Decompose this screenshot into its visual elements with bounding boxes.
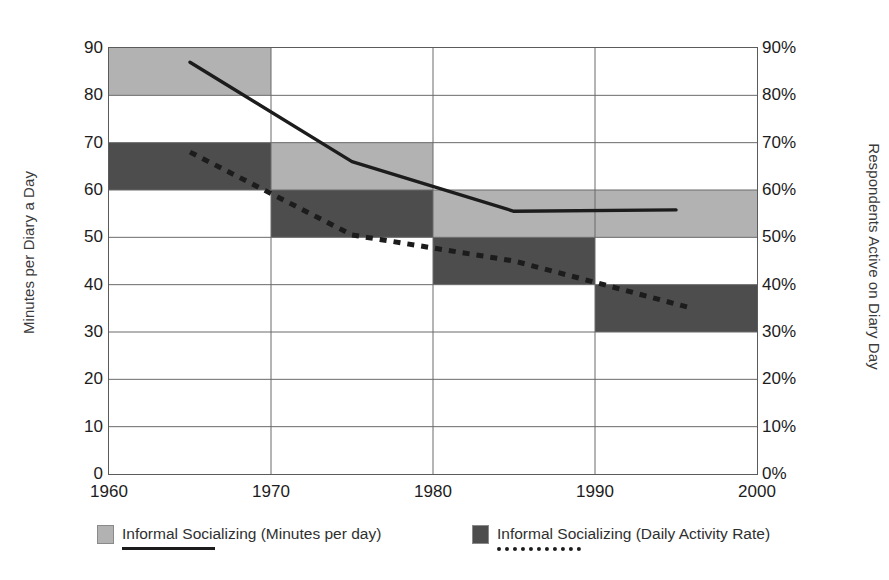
legend-label: Informal Socializing (Daily Activity Rat… <box>497 524 770 543</box>
y-axis-left-title: Minutes per Diary a Day <box>20 88 37 418</box>
y-axis-right-tick-label: 80% <box>762 86 822 103</box>
y-axis-right-title: Respondents Active on Diary Day <box>866 77 883 437</box>
plot-svg <box>109 48 757 474</box>
y-axis-right-tick-label: 60% <box>762 181 822 198</box>
band-segment <box>109 143 271 190</box>
y-axis-left-tick-label: 50 <box>57 228 103 245</box>
x-axis-tick-label: 2000 <box>738 483 776 500</box>
y-axis-left-tick-label: 80 <box>57 86 103 103</box>
y-axis-left-tick-label: 30 <box>57 323 103 340</box>
chart-legend: Informal Socializing (Minutes per day)In… <box>0 524 889 572</box>
x-axis-tick-label: 1970 <box>252 483 290 500</box>
y-axis-right-tick-label: 30% <box>762 323 822 340</box>
legend-body: Informal Socializing (Minutes per day) <box>122 524 381 550</box>
band-segment <box>433 237 595 284</box>
band-segment <box>271 190 433 237</box>
legend-label: Informal Socializing (Minutes per day) <box>122 524 381 543</box>
y-axis-left-tick-label: 70 <box>57 134 103 151</box>
band-segment <box>595 285 757 332</box>
x-axis-ticks: 19601970198019902000 <box>0 483 889 509</box>
y-axis-right-tick-label: 10% <box>762 418 822 435</box>
chart-figure: Minutes per Diary a Day Respondents Acti… <box>0 0 889 580</box>
y-axis-left-tick-label: 40 <box>57 276 103 293</box>
x-axis-tick-label: 1980 <box>414 483 452 500</box>
x-axis-tick-label: 1990 <box>576 483 614 500</box>
y-axis-left-tick-label: 0 <box>57 465 103 482</box>
y-axis-right-tick-label: 70% <box>762 134 822 151</box>
legend-entry[interactable]: Informal Socializing (Daily Activity Rat… <box>472 524 770 551</box>
band-segment <box>109 48 271 95</box>
y-axis-left-tick-label: 20 <box>57 370 103 387</box>
band-segment <box>595 190 757 237</box>
legend-entry[interactable]: Informal Socializing (Minutes per day) <box>97 524 381 550</box>
legend-line-solid <box>122 547 215 550</box>
y-axis-right-tick-label: 90% <box>762 39 822 56</box>
legend-swatch <box>472 525 489 544</box>
x-axis-tick-label: 1960 <box>90 483 128 500</box>
y-axis-right-tick-label: 20% <box>762 370 822 387</box>
legend-line-dashed <box>497 547 581 551</box>
y-axis-left-tick-label: 60 <box>57 181 103 198</box>
y-axis-right-tick-label: 0% <box>762 465 822 482</box>
band-segment <box>271 143 433 190</box>
band-segment <box>433 190 595 237</box>
y-axis-left-tick-label: 10 <box>57 418 103 435</box>
legend-swatch <box>97 525 114 544</box>
y-axis-right-tick-label: 50% <box>762 228 822 245</box>
y-axis-right-tick-label: 40% <box>762 276 822 293</box>
plot-area <box>108 47 758 475</box>
y-axis-left-tick-label: 90 <box>57 39 103 56</box>
legend-body: Informal Socializing (Daily Activity Rat… <box>497 524 770 551</box>
gridlines <box>109 48 757 474</box>
